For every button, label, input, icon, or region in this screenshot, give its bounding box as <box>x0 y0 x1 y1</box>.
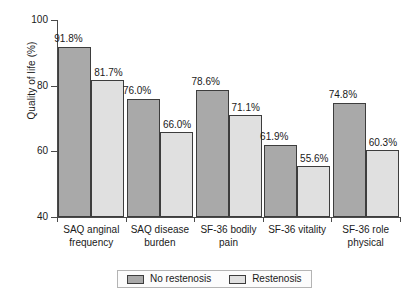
x-tick <box>400 217 401 222</box>
bar-no-restenosis <box>196 90 229 217</box>
y-tick-label: 80 <box>37 81 48 91</box>
x-tick <box>331 217 332 222</box>
x-category-label-line: SF-36 bodily <box>194 223 263 236</box>
bar-value-label: 76.0% <box>123 86 151 96</box>
x-category-label: SF-36 vitality <box>263 223 332 236</box>
bar-value-label: 71.1% <box>232 103 260 113</box>
bar-restenosis <box>91 80 124 217</box>
legend-swatch-no-restenosis <box>127 275 144 284</box>
plot-area: 406080100 91.8%81.7%76.0%66.0%78.6%71.1%… <box>57 20 400 217</box>
legend-swatch-restenosis <box>229 275 246 284</box>
bar-no-restenosis <box>333 103 366 217</box>
bar-value-label: 66.0% <box>163 120 191 130</box>
legend-item-no-restenosis: No restenosis <box>127 274 211 284</box>
bar-group: 91.8%81.7% <box>58 20 124 217</box>
bar-no-restenosis <box>58 47 91 217</box>
bar-value-label: 81.7% <box>94 68 122 78</box>
x-category-label-line: pain <box>194 236 263 249</box>
y-tick-label: 100 <box>31 15 48 25</box>
bar-value-label: 91.8% <box>54 34 82 44</box>
x-tick <box>57 217 58 222</box>
bar-restenosis <box>366 150 399 217</box>
x-category-label-line: SF-36 role <box>331 223 400 236</box>
x-category-label-line: SAQ anginal <box>57 223 126 236</box>
y-tick <box>51 86 57 87</box>
x-category-label-line: frequency <box>57 236 126 249</box>
y-tick <box>51 151 57 152</box>
bar-restenosis <box>229 115 262 217</box>
x-tick <box>194 217 195 222</box>
x-category-label-line: physical <box>331 236 400 249</box>
bar-restenosis <box>160 132 193 217</box>
x-category-label: SAQ anginalfrequency <box>57 223 126 249</box>
bar-value-label: 60.3% <box>369 138 397 148</box>
bar-no-restenosis <box>127 99 160 217</box>
bar-restenosis <box>297 166 330 217</box>
x-category-label: SAQ diseaseburden <box>126 223 195 249</box>
chart-legend: No restenosis Restenosis <box>117 270 312 288</box>
x-axis-labels: SAQ anginalfrequencySAQ diseaseburdenSF-… <box>57 223 400 255</box>
x-category-label: SF-36 bodilypain <box>194 223 263 249</box>
x-category-label-line: SAQ disease <box>126 223 195 236</box>
x-category-label-line: burden <box>126 236 195 249</box>
bar-group: 74.8%60.3% <box>333 20 399 217</box>
bar-group: 76.0%66.0% <box>127 20 193 217</box>
legend-label-restenosis: Restenosis <box>252 274 301 284</box>
y-axis-title: Quality of life (%) <box>26 6 37 156</box>
y-tick <box>51 20 57 21</box>
x-category-label-line: SF-36 vitality <box>263 223 332 236</box>
bar-value-label: 55.6% <box>300 154 328 164</box>
legend-label-no-restenosis: No restenosis <box>150 274 211 284</box>
bar-value-label: 74.8% <box>329 90 357 100</box>
y-tick-label: 60 <box>37 146 48 156</box>
bar-group: 78.6%71.1% <box>196 20 262 217</box>
y-tick-label: 40 <box>37 212 48 222</box>
bar-no-restenosis <box>264 145 297 217</box>
bar-chart: Quality of life (%) 406080100 91.8%81.7%… <box>0 0 414 300</box>
bar-group: 61.9%55.6% <box>264 20 330 217</box>
bar-value-label: 78.6% <box>192 77 220 87</box>
bar-value-label: 61.9% <box>260 132 288 142</box>
x-tick <box>126 217 127 222</box>
legend-item-restenosis: Restenosis <box>229 274 301 284</box>
x-tick <box>263 217 264 222</box>
x-axis-line <box>57 217 400 218</box>
x-category-label: SF-36 rolephysical <box>331 223 400 249</box>
